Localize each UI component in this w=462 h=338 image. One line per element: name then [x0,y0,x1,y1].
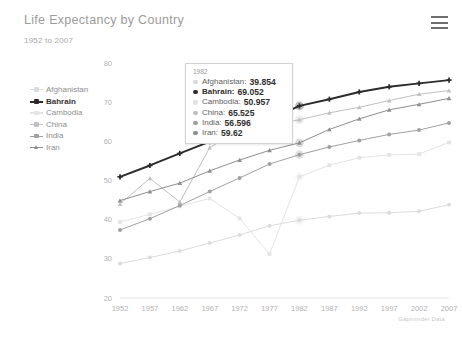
legend-item-label: Cambodia [46,107,82,119]
data-point-marker[interactable] [417,152,421,156]
tooltip-row: Afghanistan:39.854 [192,77,286,87]
data-point-marker[interactable] [416,81,421,86]
data-point-marker[interactable] [148,256,152,260]
tooltip-row: India:56.596 [192,118,286,128]
tooltip-series-dot-icon [192,89,199,96]
data-point-marker[interactable] [357,138,361,142]
legend-marker-icon [30,107,43,118]
data-point-marker[interactable] [268,252,272,256]
legend-item-cambodia[interactable]: Cambodia [30,107,88,119]
y-axis-tick-label: 40 [104,215,112,224]
data-point-marker[interactable] [417,209,421,213]
tooltip-series-value: 39.854 [249,77,275,87]
data-source-credit: Gapminder Data [398,316,445,322]
tooltip-series-name: India: [202,118,222,128]
tooltip-row: Iran:59.62 [192,128,286,138]
series-afghanistan[interactable] [118,203,451,266]
x-axis-tick-label: 1967 [201,304,218,313]
data-point-marker[interactable] [387,211,391,215]
hover-highlight-marker [295,101,304,110]
tooltip-series-name: China: [202,108,225,118]
x-axis-tick-label: 1992 [351,304,368,313]
data-point-marker[interactable] [447,121,451,125]
data-point-marker[interactable] [178,204,182,208]
y-axis-tick-label: 30 [104,254,112,263]
data-point-marker[interactable] [387,132,391,136]
legend-item-india[interactable]: India [30,130,88,142]
x-axis-tick-label: 2007 [441,304,458,313]
legend-marker-icon [30,142,43,153]
tooltip-series-dot-icon [192,99,199,106]
data-point-marker[interactable] [357,89,362,94]
tooltip-series-value: 65.525 [228,108,254,118]
data-point-marker[interactable] [148,217,152,221]
data-point-marker[interactable] [268,162,272,166]
hover-highlight-marker [295,172,304,181]
data-point-marker[interactable] [118,262,122,266]
tooltip-series-name: Bahrain: [202,87,234,97]
data-point-marker[interactable] [207,145,212,149]
y-axis-tick-label: 80 [104,59,112,68]
data-point-marker[interactable] [447,141,451,145]
chart-tooltip: 1982 Afghanistan:39.854Bahrain:69.052Cam… [185,63,293,144]
x-axis-tick-label: 1972 [231,304,248,313]
data-point-marker[interactable] [148,212,152,216]
data-point-marker[interactable] [118,220,122,224]
data-point-marker[interactable] [238,217,242,221]
data-point-marker[interactable] [447,203,451,207]
legend-item-label: Afghanistan [46,84,88,96]
series-line[interactable] [120,205,449,264]
tooltip-series-name: Cambodia: [202,97,241,107]
data-point-marker[interactable] [447,96,452,100]
data-point-marker[interactable] [268,224,272,228]
data-point-marker[interactable] [208,189,212,193]
data-point-marker[interactable] [178,249,182,253]
data-point-marker[interactable] [177,151,182,156]
data-point-marker[interactable] [118,228,122,232]
data-point-marker[interactable] [327,163,331,167]
data-point-marker[interactable] [387,84,392,89]
tooltip-series-value: 56.596 [225,118,251,128]
data-point-marker[interactable] [327,214,331,218]
legend-item-label: China [46,119,67,131]
data-point-marker[interactable] [417,128,421,132]
tooltip-series-name: Afghanistan: [202,77,246,87]
data-point-marker[interactable] [208,197,212,201]
legend-item-label: Iran [46,142,60,154]
data-point-marker[interactable] [327,145,331,149]
y-axis-tick-label: 50 [104,176,112,185]
data-point-marker[interactable] [238,233,242,237]
chart-legend[interactable]: AfghanistanBahrainCambodiaChinaIndiaIran [30,84,88,154]
x-axis-tick-label: 1997 [381,304,398,313]
chart-page: Life Expectancy by Country 1952 to 2007 … [0,0,462,338]
data-point-marker[interactable] [446,77,451,82]
x-axis-tick-label: 2002 [411,304,428,313]
x-axis-tick-label: 1982 [291,304,308,313]
y-axis-tick-label: 60 [104,137,112,146]
line-chart-svg[interactable]: 8070605040302019521957196219671972197719… [0,0,462,338]
data-point-marker[interactable] [238,176,242,180]
tooltip-series-dot-icon [192,109,199,116]
legend-item-iran[interactable]: Iran [30,142,88,154]
data-point-marker[interactable] [147,163,152,168]
data-point-marker[interactable] [327,97,332,102]
plot-area: 8070605040302019521957196219671972197719… [0,0,462,338]
hover-highlight-marker [295,115,304,124]
x-axis-tick-label: 1977 [261,304,278,313]
data-point-marker[interactable] [357,156,361,160]
data-point-marker[interactable] [387,153,391,157]
legend-item-bahrain[interactable]: Bahrain [30,96,88,108]
legend-item-afghanistan[interactable]: Afghanistan [30,84,88,96]
hover-highlight-marker [295,138,304,147]
tooltip-series-value: 69.052 [237,87,263,97]
legend-item-label: Bahrain [46,96,76,108]
tooltip-row: China:65.525 [192,108,286,118]
data-point-marker[interactable] [148,176,153,180]
data-point-marker[interactable] [208,241,212,245]
tooltip-series-name: Iran: [202,128,218,138]
tooltip-series-dot-icon [192,119,199,126]
data-point-marker[interactable] [117,174,122,179]
legend-item-label: India [46,130,63,142]
legend-item-china[interactable]: China [30,119,88,131]
data-point-marker[interactable] [357,211,361,215]
